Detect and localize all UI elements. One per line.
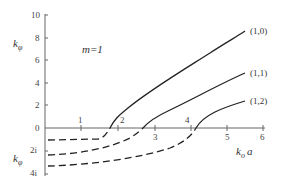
curve-label-1-2: (1,2) [250,96,267,106]
x-tick-1: 1 [78,115,83,125]
y-tick-10: 10 [31,10,41,20]
x-tick-5: 5 [225,132,230,142]
curve-label-1-1: (1,1) [250,68,267,78]
x-tick-3: 3 [153,132,158,142]
y-tick-6: 6 [35,55,40,65]
y-tick-8: 8 [35,33,40,43]
curve-1-1-imag [48,128,143,155]
chart: 10 8 6 4 2 0 2i 4i kφ kφ 1 2 3 4 5 6 koa… [0,0,283,184]
curve-label-1-0: (1,0) [250,26,267,36]
curve-1-0-imag [48,128,110,140]
y-axis-label-imag: kφ [13,152,23,167]
x-tick-2: 2 [120,115,125,125]
y-tick-4i: 4i [30,168,38,178]
y-tick-0: 0 [35,123,40,133]
y-axis-label-real: kφ [13,37,23,52]
x-tick-4: 4 [185,115,190,125]
x-axis-label: koa [236,145,253,160]
y-tick-4: 4 [35,78,40,88]
y-tick-2: 2 [35,100,40,110]
curve-1-2-real [196,101,245,128]
x-tick-6: 6 [260,132,265,142]
y-tick-2i: 2i [30,145,38,155]
curve-1-1-real [143,73,245,128]
annotation-m: m=1 [82,43,103,55]
curve-1-0-real [110,31,245,128]
curve-1-2-imag [48,128,196,166]
